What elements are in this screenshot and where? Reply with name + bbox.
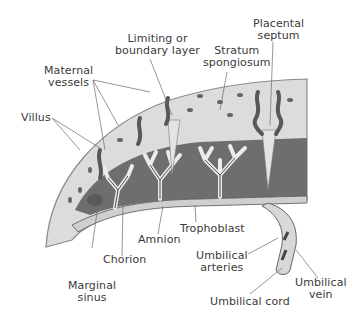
label-umbilical-cord: Umbilical cord [210, 296, 290, 308]
label-trophoblast: Trophoblast [180, 223, 245, 235]
label-chorion: Chorion [103, 254, 146, 266]
marginal-sinus-shape [87, 194, 103, 206]
label-villus: Villus [21, 112, 51, 124]
label-limiting-layer: Limiting or boundary layer [115, 33, 200, 57]
umbilical-cord [262, 203, 296, 275]
label-marginal-sinus: Marginal sinus [68, 280, 116, 304]
label-umbilical-vein: Umbilical vein [295, 277, 347, 301]
label-maternal-vessels: Maternal vessels [44, 65, 93, 89]
label-placental-septum: Placental septum [253, 18, 304, 42]
label-umbilical-arteries: Umbilical arteries [196, 250, 248, 274]
label-stratum-spongiosum: Stratum spongiosum [203, 45, 271, 69]
label-amnion: Amnion [138, 234, 181, 246]
